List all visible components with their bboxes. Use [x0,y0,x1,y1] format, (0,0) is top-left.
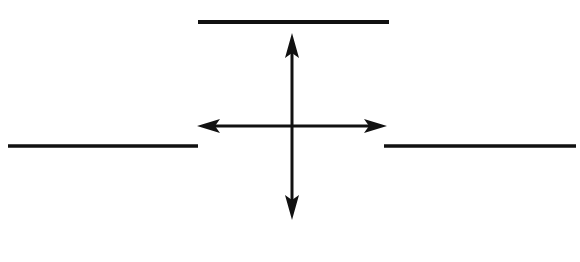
diagram-canvas [0,0,580,262]
